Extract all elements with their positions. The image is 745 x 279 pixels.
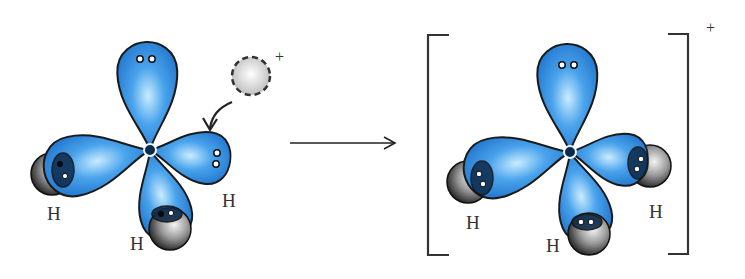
electron-icon xyxy=(480,181,486,187)
electron-icon xyxy=(588,219,594,225)
nitrogen-nucleus xyxy=(144,144,156,156)
bond-overlap xyxy=(572,214,602,230)
reaction-diagram: H H H + + xyxy=(0,0,745,279)
bond-overlap xyxy=(471,161,493,195)
ammonia-molecule: H H H xyxy=(31,41,236,254)
electron-icon xyxy=(578,219,584,225)
electron-icon xyxy=(638,156,644,162)
curved-arrow-icon xyxy=(203,102,232,130)
ammonium-ion: + H H H xyxy=(428,19,715,256)
reaction-arrow-icon xyxy=(290,137,395,149)
electron-icon xyxy=(214,150,220,156)
nitrogen-nucleus xyxy=(564,146,576,158)
bond-overlap xyxy=(152,206,182,222)
lone-pair-lobe xyxy=(116,41,180,151)
hydrogen-label: H xyxy=(47,203,61,224)
electron-icon xyxy=(62,173,67,178)
orbital-lobe xyxy=(536,43,600,153)
electron-icon xyxy=(168,210,173,215)
electron-icon xyxy=(57,161,63,167)
electron-icon xyxy=(559,62,565,68)
right-bracket xyxy=(668,34,688,254)
hydrogen-label: H xyxy=(649,201,663,222)
left-bracket xyxy=(428,35,449,255)
hydrogen-label: H xyxy=(222,190,236,211)
electron-icon xyxy=(158,211,164,217)
proton: + xyxy=(232,48,284,95)
electron-icon xyxy=(476,171,482,177)
hydrogen-label: H xyxy=(130,233,144,254)
bond-overlap xyxy=(52,153,74,187)
proton-charge: + xyxy=(275,48,284,65)
hydrogen-label: H xyxy=(546,235,560,256)
hydrogen-label: H xyxy=(466,212,480,233)
electron-icon xyxy=(571,62,577,68)
electron-icon xyxy=(213,161,219,167)
electron-icon xyxy=(137,56,143,62)
electron-icon xyxy=(634,166,640,172)
electron-icon xyxy=(149,56,155,62)
bond-overlap xyxy=(628,147,648,179)
ion-charge: + xyxy=(706,19,715,36)
